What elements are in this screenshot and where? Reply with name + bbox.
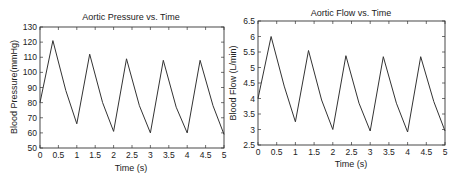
y-tick-label: 5	[250, 63, 255, 73]
x-tick-label: 1.5	[89, 150, 101, 160]
x-axis-label: Time (s)	[335, 159, 368, 169]
series-line	[40, 41, 224, 135]
x-tick-label: 2	[111, 150, 116, 160]
x-tick-label: 4	[405, 147, 410, 157]
x-tick-label: 2	[330, 147, 335, 157]
y-tick-label: 120	[23, 37, 37, 47]
y-tick-label: 60	[28, 128, 38, 138]
x-axis-label: Time (s)	[115, 163, 148, 173]
y-tick-label: 4.5	[243, 78, 255, 88]
y-axis-label: Blood Pressure(mmHg)	[9, 40, 19, 134]
x-tick-label: 3	[148, 150, 153, 160]
x-tick-label: 0	[256, 147, 261, 157]
y-tick-label: 70	[28, 113, 38, 123]
series-line	[258, 37, 445, 133]
y-tick-label: 2.5	[243, 140, 255, 150]
y-tick-label: 3	[250, 125, 255, 135]
plot-frame	[40, 27, 224, 148]
aortic-flow-chart: Aortic Flow vs. Time Time (s) Blood Flow…	[228, 8, 448, 169]
x-tick-label: 0	[38, 150, 43, 160]
y-tick-label: 4	[250, 94, 255, 104]
x-tick-label: 0.5	[271, 147, 283, 157]
x-tick-label: 0.5	[52, 150, 64, 160]
y-tick-label: 100	[23, 67, 37, 77]
y-tick-label: 110	[23, 52, 37, 62]
x-tick-label: 4.5	[420, 147, 432, 157]
y-tick-label: 3.5	[243, 109, 255, 119]
x-tick-label: 2.5	[126, 150, 138, 160]
y-tick-label: 5.5	[243, 47, 255, 57]
plot-frame	[258, 21, 445, 145]
x-tick-label: 3	[368, 147, 373, 157]
x-tick-label: 3.5	[383, 147, 395, 157]
figure: Aortic Pressure vs. Time Time (s) Blood …	[0, 0, 455, 181]
y-axis-label: Blood Flow (L/min)	[228, 45, 238, 120]
y-tick-label: 6.5	[243, 16, 255, 26]
y-tick-label: 80	[28, 98, 38, 108]
x-tick-label: 1	[74, 150, 79, 160]
y-tick-label: 90	[28, 83, 38, 93]
aortic-pressure-chart: Aortic Pressure vs. Time Time (s) Blood …	[9, 12, 227, 173]
x-tick-label: 2.5	[346, 147, 358, 157]
chart-title: Aortic Flow vs. Time	[311, 8, 392, 18]
x-tick-label: 4.5	[200, 150, 212, 160]
x-tick-label: 3.5	[163, 150, 175, 160]
x-tick-label: 5	[443, 147, 448, 157]
x-tick-label: 5	[222, 150, 227, 160]
x-tick-label: 1.5	[308, 147, 320, 157]
x-tick-label: 4	[185, 150, 190, 160]
y-tick-label: 6	[250, 32, 255, 42]
chart-title: Aortic Pressure vs. Time	[82, 12, 180, 22]
x-tick-label: 1	[293, 147, 298, 157]
y-tick-label: 50	[28, 143, 38, 153]
y-tick-label: 130	[23, 22, 37, 32]
